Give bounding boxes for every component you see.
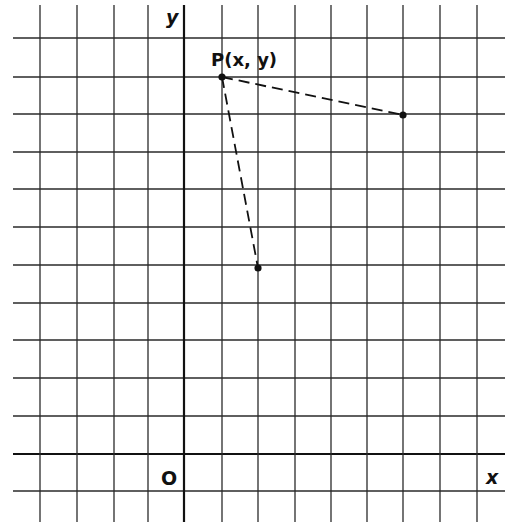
point-p-label: P(x, y)	[211, 49, 277, 70]
coordinate-grid-diagram: y x O P(x, y)	[0, 0, 509, 527]
x-axis-label: x	[485, 466, 499, 488]
grid-canvas: y x O P(x, y)	[0, 0, 509, 527]
horizontal-grid-lines	[13, 38, 505, 491]
point-b	[254, 264, 261, 271]
dashed-segments	[222, 77, 403, 268]
origin-label: O	[161, 467, 177, 489]
vertical-grid-lines	[40, 5, 477, 522]
plotted-points	[218, 73, 406, 271]
segment-p-b	[222, 77, 258, 268]
point-a	[399, 111, 406, 118]
y-axis-label: y	[166, 6, 180, 28]
point-p	[218, 73, 225, 80]
segment-p-a	[222, 77, 403, 115]
